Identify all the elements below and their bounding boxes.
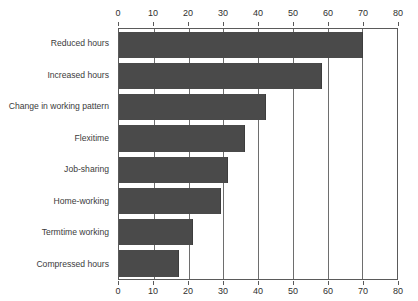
x-axis-top-tick-mark: [188, 22, 189, 26]
x-axis-top-tick-label: 20: [183, 8, 193, 18]
category-label: Compressed hours: [0, 249, 114, 281]
category-label: Termtime working: [0, 217, 114, 249]
bar-row: [119, 154, 397, 185]
x-axis-bottom-tick-label: 10: [148, 286, 158, 296]
x-axis-top-tick-label: 50: [288, 8, 298, 18]
category-label: Flexitime: [0, 123, 114, 155]
x-axis-bottom-tick-mark: [118, 281, 119, 285]
x-axis-bottom-tick-label: 50: [288, 286, 298, 296]
bar-row: [119, 185, 397, 216]
category-label: Job-sharing: [0, 154, 114, 186]
x-axis-top-tick-label: 40: [253, 8, 263, 18]
bar-series: [119, 29, 397, 279]
x-axis-bottom-tick-label: 80: [393, 286, 403, 296]
category-label: Home-working: [0, 186, 114, 218]
x-axis-bottom-tick-label: 40: [253, 286, 263, 296]
category-label: Reduced hours: [0, 28, 114, 60]
x-axis-top-tick-label: 60: [323, 8, 333, 18]
x-axis-top-tick-mark: [328, 22, 329, 26]
x-axis-top-tick-label: 80: [393, 8, 403, 18]
x-axis-top-tick-mark: [223, 22, 224, 26]
x-axis-bottom-ticks: 01020304050607080: [118, 281, 398, 299]
x-axis-bottom-tick-mark: [328, 281, 329, 285]
x-axis-top-tick-label: 0: [115, 8, 120, 18]
x-axis-bottom-tick-mark: [153, 281, 154, 285]
x-axis-top-tick-mark: [363, 22, 364, 26]
x-axis-top: 01020304050607080: [118, 8, 398, 26]
x-axis-top-tick-mark: [258, 22, 259, 26]
bar-row: [119, 60, 397, 91]
x-axis-bottom-tick-label: 60: [323, 286, 333, 296]
cropped-title-remnant: [0, 0, 418, 7]
x-axis-bottom-tick-mark: [363, 281, 364, 285]
bar: [119, 32, 363, 58]
x-axis-top-tick-mark: [398, 22, 399, 26]
bar-row: [119, 92, 397, 123]
x-axis-bottom-tick-mark: [188, 281, 189, 285]
bar-row: [119, 217, 397, 248]
bar-chart: 01020304050607080 Reduced hoursIncreased…: [0, 0, 418, 301]
category-label: Change in working pattern: [0, 91, 114, 123]
category-labels: Reduced hoursIncreased hoursChange in wo…: [0, 28, 114, 280]
x-axis-bottom-tick-mark: [398, 281, 399, 285]
x-axis-bottom-tick-mark: [223, 281, 224, 285]
bar-row: [119, 123, 397, 154]
bar-row: [119, 248, 397, 279]
x-axis-top-ticks: 01020304050607080: [118, 8, 398, 26]
bar: [119, 188, 221, 214]
x-axis-bottom-tick-label: 30: [218, 286, 228, 296]
x-axis-top-tick-label: 30: [218, 8, 228, 18]
plot-area: [118, 28, 398, 280]
bar: [119, 125, 245, 151]
category-label: Increased hours: [0, 60, 114, 92]
x-axis-top-tick-mark: [118, 22, 119, 26]
x-axis-top-tick-mark: [153, 22, 154, 26]
bar: [119, 157, 228, 183]
x-axis-bottom-tick-mark: [293, 281, 294, 285]
x-axis-bottom-tick-label: 70: [358, 286, 368, 296]
x-axis-bottom-tick-label: 20: [183, 286, 193, 296]
x-axis-top-tick-label: 70: [358, 8, 368, 18]
x-axis-bottom-tick-mark: [258, 281, 259, 285]
bar: [119, 94, 266, 120]
x-axis-top-tick-mark: [293, 22, 294, 26]
bar-row: [119, 29, 397, 60]
bar: [119, 250, 179, 276]
x-axis-bottom: 01020304050607080: [118, 281, 398, 299]
x-axis-bottom-tick-label: 0: [115, 286, 120, 296]
x-axis-top-tick-label: 10: [148, 8, 158, 18]
bar: [119, 63, 322, 89]
bar: [119, 219, 193, 245]
